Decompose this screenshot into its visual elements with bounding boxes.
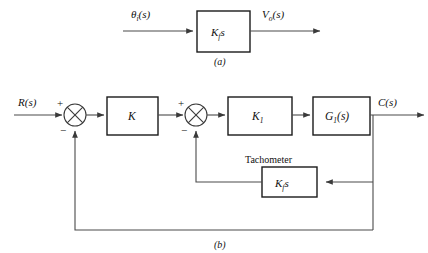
sum1-plus-sign: + <box>57 97 63 109</box>
outer-feedback-wire <box>75 131 373 230</box>
part-a-output-label: Vo(s) <box>262 8 284 23</box>
input-label-r: R(s) <box>17 96 37 109</box>
part-a-caption: (a) <box>214 56 226 68</box>
tachometer-block <box>262 167 317 197</box>
figure-canvas: θi(s) Kfs Vo(s) (a) <box>0 0 428 253</box>
sum2-plus-sign: + <box>178 97 184 109</box>
block-diagram-svg: θi(s) Kfs Vo(s) (a) <box>0 0 428 253</box>
sum1-minus-sign: − <box>60 124 66 136</box>
sum2-minus-sign: − <box>181 124 187 136</box>
part-a-group: θi(s) Kfs Vo(s) (a) <box>123 8 320 68</box>
part-b-group: R(s) C(s) + − + − K K1 G1(s) Kfs Tachome… <box>14 96 424 251</box>
output-label-c: C(s) <box>378 96 397 109</box>
tachometer-caption: Tachometer <box>245 154 293 165</box>
part-b-caption: (b) <box>214 239 226 251</box>
part-a-input-label: θi(s) <box>131 8 150 23</box>
gain-block-k-label: K <box>127 110 137 122</box>
